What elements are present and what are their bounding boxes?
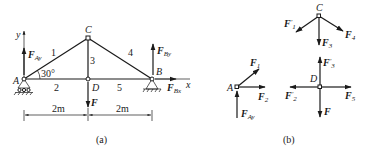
dimension-label-right: 2m [116,103,129,114]
force-C-F1-prime-label: F′1 [283,18,296,31]
panel-b-caption: (b) [283,134,295,146]
fbd-joint-A: A F1 F2 FAy [226,57,269,121]
fbd-joint-D: D F′3 F′2 F5 F [284,57,356,117]
force-D-F2-prime-label: F′2 [284,90,297,103]
panel-a-caption: (a) [96,134,107,146]
joint-A-b [235,85,239,89]
force-A-F2-label: F2 [257,91,269,104]
joint-C-b-label: C [316,2,323,13]
dimension-label-left: 2m [52,103,65,114]
force-C-F3-label: F3 [321,37,333,50]
angle-label: 30° [41,68,55,79]
joint-D-b [318,85,322,89]
panel-b: C F′1 F4 F3 A F1 F2 FAy [226,2,356,146]
member-4-label: 4 [128,47,133,58]
joint-C-label: C [85,24,92,35]
y-axis-label: y [15,29,21,40]
panel-a: y 1 2 3 4 5 30° FAy FBy x FBx [12,24,191,146]
member-1-label: 1 [51,47,56,58]
joint-C [86,36,90,40]
force-A-F1 [237,69,259,87]
angle-arc [37,70,40,79]
joint-C-b [317,14,321,18]
member-5-label: 5 [117,82,122,93]
joint-A-b-label: A [226,82,234,93]
force-C-F1-prime [296,16,319,32]
force-C-F4 [319,16,343,31]
joint-A [22,77,26,81]
joint-B-label: B [156,66,162,77]
force-D-F-label: F [323,106,331,117]
force-F-Bx-label: FBx [166,82,182,95]
force-A-F1-label: F1 [249,57,260,70]
truss-diagram: y 1 2 3 4 5 30° FAy FBy x FBx [0,0,370,156]
joint-D-b-label: D [309,73,318,84]
force-C-F4-label: F4 [344,29,356,42]
force-F-By-label: FBy [156,45,172,58]
dimension-line [24,108,152,121]
x-axis-label: x [185,79,191,90]
member-3-label: 3 [90,55,95,66]
force-A-FAy-label: FAy [240,108,256,121]
joint-D [86,77,90,81]
force-F-label: F [90,97,98,108]
force-D-F5-label: F5 [344,90,356,103]
member-4 [88,38,152,79]
fbd-joint-C: C F′1 F4 F3 [283,2,356,50]
joint-D-label: D [91,82,100,93]
force-F-Ay-label: FAy [27,49,43,62]
force-D-F3-prime-label: F′3 [322,57,335,70]
joint-B [150,77,154,81]
member-2-label: 2 [54,82,59,93]
joint-A-label: A [12,75,20,86]
